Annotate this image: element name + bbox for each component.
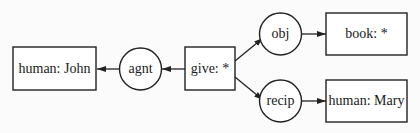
concept-label: human: John [19,61,91,76]
relation-recip: recip [260,80,302,122]
concept-give: give: * [185,47,235,90]
relation-obj: obj [260,13,302,55]
concept-label: give: * [191,61,230,76]
concept-book: book: * [326,13,407,55]
relation-label: obj [272,26,290,41]
concept-human-mary: human: Mary [326,80,407,122]
relation-label: agnt [128,61,152,76]
concept-label: book: * [345,26,387,41]
concept-label: human: Mary [329,93,405,108]
edge-give-to-obj [235,38,263,61]
relation-agnt: agnt [120,48,162,90]
conceptual-graph-diagram: human: John agnt give: * obj book: * rec… [0,0,420,133]
edge-give-to-recip [235,77,263,100]
relation-label: recip [267,93,295,108]
concept-human-john: human: John [13,47,96,90]
